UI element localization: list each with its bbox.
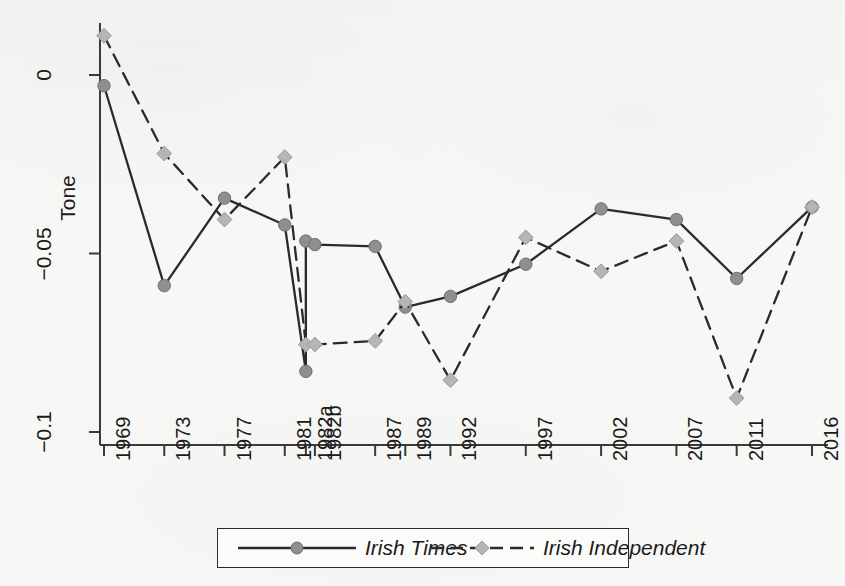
x-tick-label: 1981: [293, 417, 316, 462]
data-point-circle: [279, 219, 291, 231]
data-point-circle: [98, 80, 110, 92]
x-tick-label: 2007: [684, 417, 707, 462]
data-point-circle: [300, 365, 312, 377]
x-tick-label: 1969: [112, 417, 135, 462]
legend-key-dashed-diamond: [428, 537, 536, 559]
data-point-circle: [670, 213, 682, 225]
data-point-diamond: [669, 234, 684, 249]
data-point-diamond: [97, 28, 112, 43]
data-point-circle: [730, 272, 742, 284]
series-layer: [97, 28, 820, 405]
legend-label-irish-independent: Irish Independent: [543, 536, 705, 560]
data-point-circle: [520, 258, 532, 270]
tick-marks: [89, 75, 812, 456]
series-irish-times: [98, 80, 818, 378]
x-tick-label: 1973: [172, 417, 195, 462]
series-line: [104, 86, 812, 372]
axis-lines: [100, 23, 828, 445]
series-irish-independent: [97, 28, 820, 405]
chart-figure: Tone 0−0.05−0.1 19691973197719811982a198…: [0, 0, 845, 586]
y-tick-label: −0.1: [32, 411, 56, 452]
x-tick-label: 1989: [413, 417, 436, 462]
x-tick-label: 2016: [820, 417, 843, 462]
data-point-circle: [369, 240, 381, 252]
y-tick-label: 0: [32, 69, 56, 81]
data-point-circle: [158, 279, 170, 291]
x-tick-label: 1987: [383, 417, 406, 462]
y-axis-title: Tone: [56, 138, 80, 258]
line-chart-plot: [0, 0, 845, 586]
data-point-diamond: [443, 373, 458, 388]
x-tick-label: 1982b: [323, 405, 346, 461]
data-point-circle: [218, 192, 230, 204]
legend-key-solid-circle: [236, 537, 358, 559]
x-tick-label: 1992: [458, 417, 481, 462]
data-point-diamond: [518, 230, 533, 245]
x-tick-label: 2002: [609, 417, 632, 462]
x-tick-label: 2011: [745, 418, 768, 461]
data-point-diamond: [594, 264, 609, 279]
y-tick-label: −0.05: [32, 227, 56, 280]
x-tick-label: 1977: [233, 417, 256, 462]
data-point-circle: [444, 290, 456, 302]
x-tick-label: 1997: [534, 417, 557, 462]
data-point-circle: [309, 238, 321, 250]
data-point-diamond: [729, 391, 744, 406]
chart-legend: Irish Times Irish Independent: [217, 528, 629, 568]
data-point-circle: [595, 203, 607, 215]
data-point-diamond: [307, 337, 322, 352]
legend-item-irish-independent: Irish Independent: [428, 529, 705, 567]
series-line: [104, 36, 812, 398]
